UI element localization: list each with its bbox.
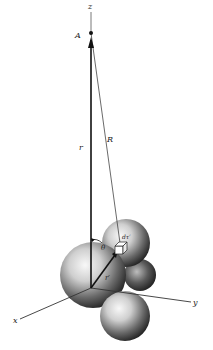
R-label: R xyxy=(106,135,113,144)
charge-distribution-diagram: z A r R θ dτ′ r′ x y xyxy=(0,0,213,350)
x-axis-label: x xyxy=(13,316,18,325)
r-arrowhead xyxy=(88,37,94,48)
r-prime-label: r′ xyxy=(105,274,110,282)
z-axis-label: z xyxy=(87,2,93,11)
R-line xyxy=(91,33,120,243)
r-label: r xyxy=(79,143,84,152)
volume-element-cube xyxy=(115,242,127,254)
dtau-label: dτ′ xyxy=(122,233,131,240)
point-A-dot xyxy=(89,31,93,35)
point-A-label: A xyxy=(74,31,81,40)
lower-sphere xyxy=(100,291,150,341)
y-axis-label: y xyxy=(192,298,198,307)
